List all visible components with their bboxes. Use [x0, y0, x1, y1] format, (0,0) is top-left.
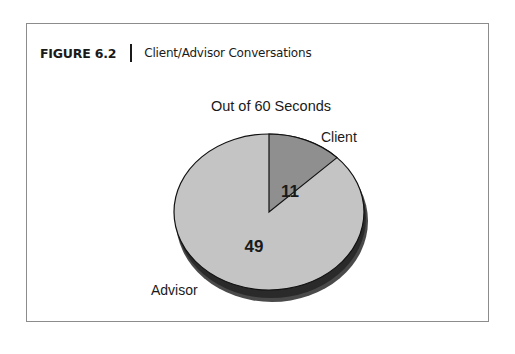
value-label-advisor: 49: [245, 237, 264, 256]
category-label-client: Client: [321, 129, 357, 145]
category-label-advisor: Advisor: [151, 282, 198, 298]
chart-title: Out of 60 Seconds: [211, 98, 331, 114]
pie-chart: Out of 60 Seconds 11 49 Client Advisor: [0, 0, 515, 354]
value-label-client: 11: [281, 182, 299, 201]
